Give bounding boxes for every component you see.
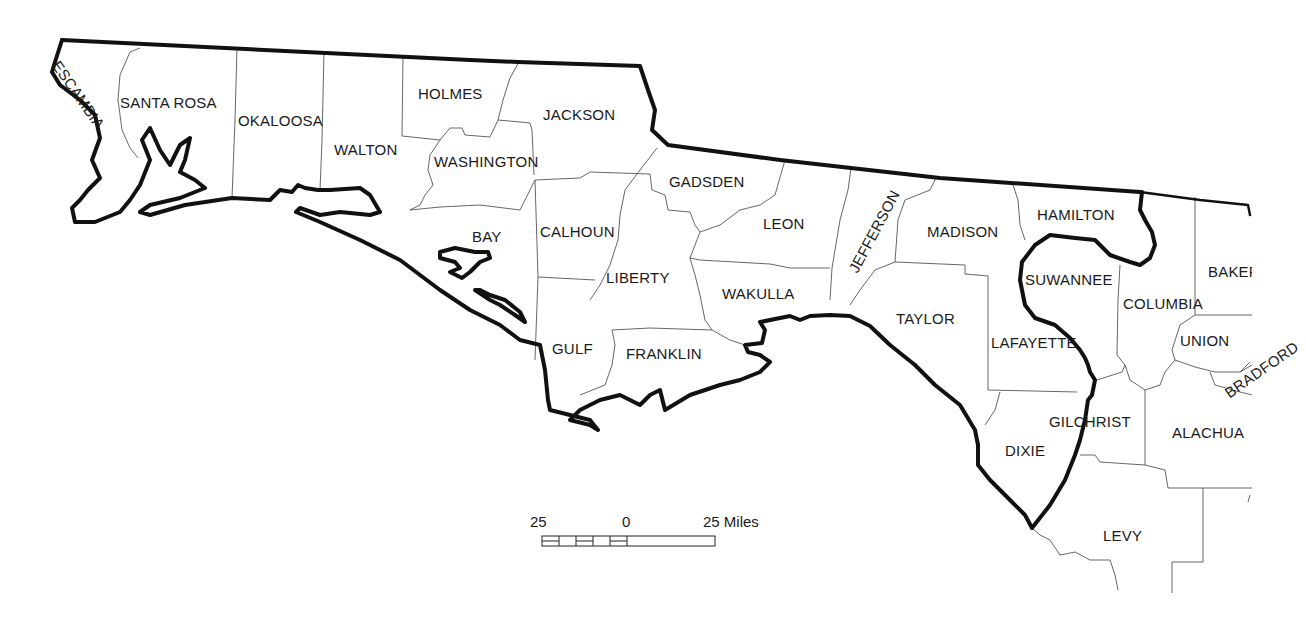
county-label-gilchrist: GILCHRIST xyxy=(1049,414,1131,429)
county-label-jackson: JACKSON xyxy=(543,107,615,122)
county-label-franklin: FRANKLIN xyxy=(626,346,702,361)
county-label-lafayette: LAFAYETTE xyxy=(991,335,1077,350)
county-label-gadsden: GADSDEN xyxy=(669,174,745,189)
right-edge xyxy=(1252,0,1306,623)
county-map: ESCAMBIA SANTA ROSA OKALOOSA WALTON HOLM… xyxy=(0,0,1306,623)
county-label-wakulla: WAKULLA xyxy=(722,286,795,301)
county-label-walton: WALTON xyxy=(334,142,397,157)
scale-label-right: 25 Miles xyxy=(703,514,759,529)
county-label-union: UNION xyxy=(1180,333,1229,348)
county-label-baker: BAKER xyxy=(1208,264,1252,279)
county-label-leon: LEON xyxy=(763,216,805,231)
county-label-bay: BAY xyxy=(472,229,502,244)
county-label-dixie: DIXIE xyxy=(1005,443,1045,458)
county-label-alachua: ALACHUA xyxy=(1172,425,1244,440)
scale-label-center: 0 xyxy=(622,514,630,529)
county-label-madison: MADISON xyxy=(927,224,998,239)
county-label-santa-rosa: SANTA ROSA xyxy=(120,95,217,110)
county-label-okaloosa: OKALOOSA xyxy=(238,113,323,128)
county-label-liberty: LIBERTY xyxy=(606,270,670,285)
county-label-levy: LEVY xyxy=(1103,528,1142,543)
county-label-columbia: COLUMBIA xyxy=(1123,296,1203,311)
county-label-holmes: HOLMES xyxy=(418,86,483,101)
county-label-suwannee: SUWANNEE xyxy=(1025,272,1113,287)
county-label-hamilton: HAMILTON xyxy=(1037,207,1115,222)
county-label-washington: WASHINGTON xyxy=(434,154,539,169)
scale-bar xyxy=(542,536,715,546)
scale-label-left: 25 xyxy=(530,514,547,529)
county-label-gulf: GULF xyxy=(552,341,593,356)
county-label-calhoun: CALHOUN xyxy=(540,224,615,239)
county-label-taylor: TAYLOR xyxy=(896,311,955,326)
